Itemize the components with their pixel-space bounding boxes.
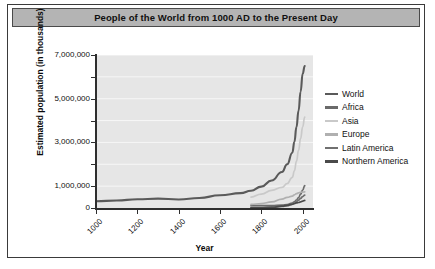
legend-item[interactable]: Asia <box>325 114 425 128</box>
legend-swatch-icon <box>325 93 338 96</box>
legend-item-label: World <box>342 89 364 99</box>
x-axis-tick <box>220 209 221 214</box>
plot-area <box>96 55 313 208</box>
x-axis-tick-label: 2000 <box>288 217 311 240</box>
legend-item-label: Europe <box>342 129 369 139</box>
y-axis-tick-label: 5,000,000 <box>54 94 90 103</box>
legend-item[interactable]: Northern America <box>325 155 425 169</box>
chart-legend: WorldAfricaAsiaEuropeLatin AmericaNorthe… <box>325 87 425 168</box>
x-axis-tick-label: 1400 <box>164 217 187 240</box>
legend-item[interactable]: Europe <box>325 128 425 142</box>
y-axis-tick-label: 0 <box>86 203 90 212</box>
chart-frame: People of the World from 1000 AD to the … <box>7 4 425 258</box>
x-axis-tick <box>96 209 97 214</box>
legend-item-label: Latin America <box>342 143 394 153</box>
legend-item-label: Northern America <box>342 156 408 166</box>
x-axis-title: Year <box>96 243 313 253</box>
x-axis-tick <box>137 209 138 214</box>
legend-swatch-icon <box>325 147 338 150</box>
page-title: People of the World from 1000 AD to the … <box>94 12 338 23</box>
y-axis-tick-label: 7,000,000 <box>54 50 90 59</box>
x-axis-tick <box>179 209 180 214</box>
legend-swatch-icon <box>325 133 338 136</box>
legend-item-label: Asia <box>342 116 359 126</box>
y-axis-tick-label: 3,000,000 <box>54 137 90 146</box>
x-axis-tick-label: 1800 <box>246 217 269 240</box>
series-line <box>96 66 305 201</box>
x-axis-tick <box>303 209 304 214</box>
legend-item[interactable]: Africa <box>325 101 425 115</box>
y-axis-tick-label: 1,000,000 <box>54 181 90 190</box>
series-lines <box>96 55 313 208</box>
legend-swatch-icon <box>325 120 338 123</box>
legend-swatch-icon <box>325 160 338 163</box>
y-axis-line <box>95 54 97 209</box>
x-axis-tick-label: 1600 <box>205 217 228 240</box>
x-axis-tick-label: 1200 <box>122 217 145 240</box>
y-axis-tick-labels: 01,000,0003,000,0005,000,0007,000,000 <box>34 5 90 259</box>
x-axis-line <box>95 208 314 210</box>
legend-swatch-icon <box>325 106 338 109</box>
x-axis-tick <box>261 209 262 214</box>
legend-item[interactable]: World <box>325 87 425 101</box>
legend-item[interactable]: Latin America <box>325 141 425 155</box>
legend-item-label: Africa <box>342 102 364 112</box>
